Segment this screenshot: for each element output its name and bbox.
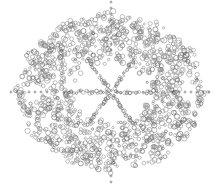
circle-mark: [34, 100, 38, 104]
circle-mark: [134, 56, 137, 59]
circle-mark: [54, 135, 59, 140]
circle-mark: [79, 131, 82, 134]
circle-mark: [140, 114, 143, 117]
circle-mark: [188, 128, 191, 131]
circle-mark: [138, 20, 140, 22]
circle-mark: [167, 113, 170, 116]
circle-mark: [124, 19, 128, 23]
circle-mark: [144, 112, 147, 115]
circle-mark: [137, 71, 141, 75]
circle-mark: [90, 26, 95, 31]
circle-mark: [179, 59, 182, 62]
circle-mark: [110, 157, 112, 159]
circle-mark: [95, 131, 100, 136]
circle-mark: [154, 20, 158, 24]
circle-mark: [148, 54, 152, 58]
circle-mark: [163, 102, 167, 106]
circle-mark: [26, 58, 29, 61]
circle-mark: [44, 127, 48, 131]
circle-mark: [78, 61, 81, 64]
circle-mark: [158, 127, 160, 129]
circle-mark: [155, 151, 160, 156]
circle-mark: [51, 75, 55, 79]
circle-mark: [118, 144, 121, 147]
circle-mark: [110, 7, 112, 9]
circle-mark: [126, 90, 128, 92]
circle-mark: [64, 101, 68, 105]
circle-mark: [97, 49, 103, 55]
circle-mark: [187, 71, 192, 76]
circle-mark: [78, 90, 81, 93]
circle-mark: [138, 91, 141, 94]
circle-mark: [106, 32, 110, 36]
circle-mark: [122, 150, 126, 154]
circle-mark: [109, 154, 111, 156]
circle-mark: [158, 58, 160, 60]
circle-mark: [162, 82, 166, 86]
circle-mark: [120, 126, 124, 130]
circle-mark: [126, 156, 130, 160]
circle-mark: [199, 80, 202, 83]
circle-mark: [125, 123, 130, 128]
circle-mark: [79, 128, 82, 131]
circle-mark: [179, 109, 182, 112]
circle-mark: [168, 38, 173, 43]
circle-mark: [154, 38, 158, 42]
circle-mark: [181, 136, 187, 142]
circle-mark: [50, 123, 55, 128]
circle-mark: [148, 22, 152, 26]
circle-mark: [98, 39, 100, 41]
circle-mark: [26, 83, 30, 87]
circle-mark: [161, 109, 165, 113]
circle-mark: [60, 75, 62, 77]
circle-mark: [64, 155, 67, 158]
circle-mark: [165, 35, 168, 38]
circle-mark: [150, 154, 155, 159]
circle-mark: [160, 38, 164, 42]
circle-mark: [73, 162, 76, 165]
circle-mark: [126, 16, 130, 20]
circle-mark: [33, 131, 35, 133]
circle-mark: [41, 113, 43, 115]
circle-mark: [66, 46, 68, 48]
circle-mark: [153, 27, 158, 32]
circle-mark: [145, 121, 150, 126]
circle-mark: [164, 124, 167, 127]
circle-mark: [30, 55, 34, 59]
circle-mark: [143, 23, 145, 25]
circle-mark: [110, 181, 112, 183]
circle-mark: [184, 91, 186, 93]
circle-mark: [54, 131, 56, 133]
circle-mark: [79, 39, 81, 41]
circle-mark: [107, 58, 110, 61]
circle-mark: [62, 66, 67, 71]
fractal-circle-pattern: [0, 0, 222, 186]
circle-mark: [63, 135, 66, 138]
circle-mark: [88, 140, 91, 143]
circle-mark: [92, 139, 95, 142]
circle-mark: [53, 146, 55, 148]
circle-mark: [135, 67, 137, 69]
circle-mark: [98, 120, 103, 125]
circle-mark: [73, 79, 77, 83]
circle-mark: [196, 86, 200, 90]
circle-mark: [115, 97, 117, 99]
circle-mark: [120, 92, 122, 94]
circle-mark: [79, 23, 83, 27]
circle-mark: [100, 25, 102, 27]
circle-mark: [169, 132, 172, 135]
circle-mark: [123, 75, 125, 77]
circle-mark: [68, 49, 71, 52]
circle-mark: [102, 155, 106, 159]
circle-mark: [116, 165, 118, 167]
circle-mark: [111, 148, 117, 154]
circle-mark: [106, 41, 111, 46]
circle-mark: [20, 74, 25, 79]
circle-mark: [193, 82, 196, 85]
circle-mark: [74, 21, 77, 24]
circle-mark: [137, 137, 141, 141]
circle-mark: [167, 118, 172, 123]
circle-mark: [185, 131, 189, 135]
circle-mark: [28, 91, 30, 93]
circle-mark: [65, 90, 67, 92]
